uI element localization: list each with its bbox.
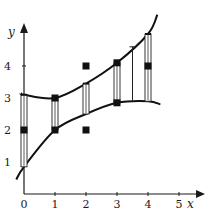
data-point-marker <box>114 59 121 66</box>
data-point-marker <box>83 63 90 70</box>
data-point-marker <box>21 127 28 134</box>
x-tick-label: 4 <box>145 198 152 211</box>
data-point-marker <box>52 95 59 102</box>
axes: x y <box>7 23 205 211</box>
y-tick-label: 3 <box>4 92 11 105</box>
x-ticks: 012345 <box>21 192 183 211</box>
y-tick-label: 1 <box>4 156 11 169</box>
interval-cap <box>83 83 89 85</box>
data-point-marker <box>83 127 90 134</box>
data-point-marker <box>52 127 59 134</box>
x-tick-label: 0 <box>21 198 28 211</box>
y-tick-label: 2 <box>4 124 11 137</box>
interval-cap <box>145 33 151 35</box>
chart: x y 012345 1234 <box>0 0 210 212</box>
y-axis-arrow-icon <box>20 23 28 33</box>
x-axis-arrow-icon <box>196 190 205 198</box>
data-point-marker <box>114 99 121 106</box>
y-axis-label: y <box>7 25 15 39</box>
y-tick-label: 4 <box>4 60 11 73</box>
x-tick-label: 5 <box>176 198 183 211</box>
interval-cap <box>21 94 27 96</box>
x-tick-label: 1 <box>52 198 59 211</box>
x-tick-label: 3 <box>114 198 121 211</box>
x-axis-label: x <box>187 197 194 211</box>
data-point-marker <box>145 63 152 70</box>
x-tick-label: 2 <box>83 198 90 211</box>
